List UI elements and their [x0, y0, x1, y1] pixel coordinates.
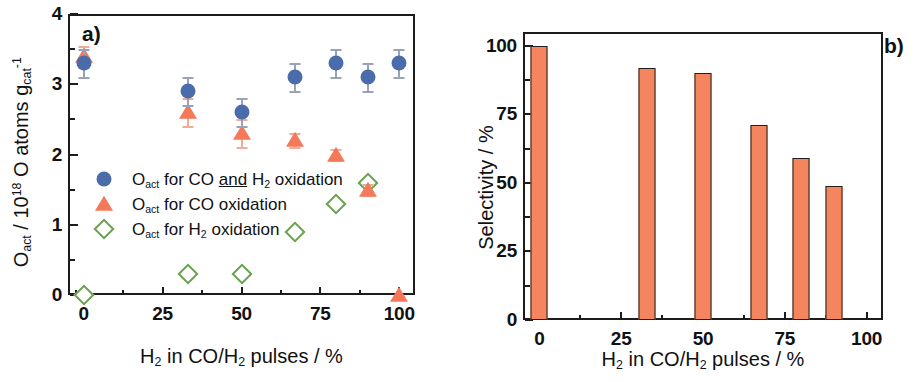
panel-a: a) Oact / 1018 O atoms gcat-1 H2 in CO/H… — [0, 0, 460, 382]
panel-a-x-tick-minor — [280, 290, 282, 295]
panel-a-y-tick-major — [70, 154, 78, 156]
bar — [531, 46, 548, 320]
panel-b-y-tick-minor — [525, 79, 530, 81]
data-point-triangle — [390, 287, 408, 302]
panel-a-y-tick-minor — [70, 189, 75, 191]
panel-b-x-axis-title: H2 in CO/H2 pulses / % — [523, 348, 883, 372]
panel-b-letter: b) — [884, 34, 904, 58]
panel-a-y-tick-label: 0 — [24, 284, 62, 306]
panel-b-y-tick-label: 50 — [471, 172, 517, 194]
panel-a-y-tick-minor — [70, 259, 75, 261]
error-bar-cap — [78, 49, 89, 51]
error-bar-cap — [290, 63, 301, 65]
panel-b: b) Selectivity / % H2 in CO/H2 pulses / … — [460, 0, 921, 382]
panel-a-y-tick-label: 1 — [24, 214, 62, 236]
panel-b-y-tick-label: 75 — [471, 103, 517, 125]
data-point-triangle — [327, 146, 345, 161]
panel-b-x-tick-major — [866, 312, 868, 320]
panel-b-x-tick-label: 75 — [774, 328, 795, 350]
panel-b-y-tick-minor — [525, 216, 530, 218]
panel-a-plot-frame — [68, 14, 415, 295]
panel-a-y-tick-major — [70, 224, 78, 226]
error-bar-cap — [236, 98, 247, 100]
panel-a-x-axis-title: H2 in CO/H2 pulses / % — [68, 345, 415, 369]
panel-b-x-tick-label: 0 — [534, 328, 544, 350]
legend-marker-circle — [97, 172, 112, 187]
legend-item: Oact for H2 oxidation — [96, 217, 343, 242]
panel-a-x-tick-label: 50 — [231, 303, 252, 325]
panel-b-y-tick-label: 100 — [471, 35, 517, 57]
panel-b-y-tick-label: 25 — [471, 240, 517, 262]
legend-item: Oact for CO and H2 oxidation — [96, 167, 343, 192]
panel-a-letter: a) — [82, 22, 101, 46]
data-point-circle — [234, 105, 249, 120]
bar — [825, 186, 842, 320]
panel-a-x-tick-minor — [359, 290, 361, 295]
data-point-triangle — [359, 181, 377, 196]
bar — [695, 73, 712, 320]
legend-label: Oact for H2 oxidation — [132, 217, 280, 247]
figure-container: a) Oact / 1018 O atoms gcat-1 H2 in CO/H… — [0, 0, 921, 382]
error-bar-cap — [394, 77, 405, 79]
panel-a-y-tick-label: 3 — [24, 73, 62, 95]
panel-a-x-tick-major — [319, 287, 321, 295]
error-bar-cap — [182, 77, 193, 79]
data-point-circle — [76, 56, 91, 71]
panel-a-x-tick-label: 25 — [152, 303, 173, 325]
error-bar-cap — [182, 105, 193, 107]
panel-a-y-tick-label: 2 — [24, 144, 62, 166]
panel-b-x-tick-minor — [579, 315, 581, 320]
panel-a-y-tick-minor — [70, 118, 75, 120]
error-bar-cap — [362, 63, 373, 65]
panel-a-x-tick-label: 100 — [384, 303, 415, 325]
error-bar-cap — [290, 91, 301, 93]
error-bar-cap — [236, 126, 247, 128]
bar — [750, 125, 767, 320]
panel-b-y-tick-label: 0 — [471, 309, 517, 331]
bar — [639, 68, 656, 320]
panel-a-x-tick-label: 0 — [79, 303, 89, 325]
error-bar-cap — [78, 77, 89, 79]
panel-b-x-tick-label: 50 — [693, 328, 714, 350]
panel-a-x-tick-minor — [201, 290, 203, 295]
error-bar-cap — [362, 91, 373, 93]
panel-a-legend: Oact for CO and H2 oxidationOact for CO … — [96, 167, 343, 242]
panel-a-x-tick-major — [241, 287, 243, 295]
bar — [793, 158, 810, 320]
panel-a-y-tick-major — [70, 13, 78, 15]
data-point-circle — [360, 70, 375, 85]
data-point-circle — [329, 56, 344, 71]
panel-b-x-tick-label: 100 — [851, 328, 882, 350]
error-bar-cap — [290, 147, 301, 149]
data-point-circle — [392, 56, 407, 71]
legend-marker-diamond — [93, 218, 114, 239]
panel-a-x-tick-label: 75 — [310, 303, 331, 325]
panel-b-y-tick-minor — [525, 285, 530, 287]
legend-item: Oact for CO oxidation — [96, 192, 343, 217]
error-bar-cap — [331, 77, 342, 79]
panel-b-x-tick-major — [620, 312, 622, 320]
error-bar-cap — [394, 49, 405, 51]
data-point-circle — [288, 70, 303, 85]
panel-a-x-tick-minor — [122, 290, 124, 295]
panel-a-y-tick-label: 4 — [24, 3, 62, 25]
panel-a-y-tick-major — [70, 83, 78, 85]
panel-b-x-tick-minor — [743, 315, 745, 320]
panel-b-x-tick-minor — [661, 315, 663, 320]
panel-b-x-tick-major — [784, 312, 786, 320]
data-point-circle — [180, 84, 195, 99]
panel-b-y-tick-minor — [525, 148, 530, 150]
data-point-triangle — [286, 132, 304, 147]
legend-marker-triangle — [95, 196, 113, 211]
panel-b-x-tick-label: 25 — [611, 328, 632, 350]
error-bar-cap — [331, 49, 342, 51]
error-bar-cap — [182, 126, 193, 128]
error-bar-cap — [236, 147, 247, 149]
panel-a-x-tick-major — [162, 287, 164, 295]
